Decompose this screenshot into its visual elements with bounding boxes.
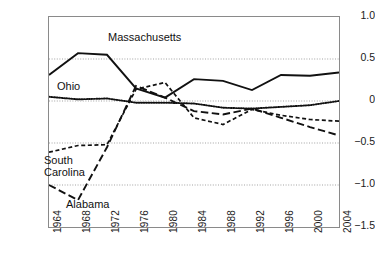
series-label-south-carolina: South Carolina <box>44 155 85 178</box>
x-tick-label: 1992 <box>255 210 266 233</box>
series-label-ohio: Ohio <box>57 81 80 93</box>
series-label-alabama: Alabama <box>66 199 109 211</box>
x-tick-label: 2004 <box>342 210 353 233</box>
x-tick-label: 1996 <box>284 210 295 233</box>
x-tick-label: 1988 <box>226 210 237 233</box>
x-tick-label: 1968 <box>81 210 92 233</box>
gridlines <box>49 59 339 185</box>
chart-figure: 1.00.50−0.5−1.0−1.5 19641968197219761980… <box>0 0 375 268</box>
plot-area <box>48 16 340 228</box>
x-tick-label: 1984 <box>197 210 208 233</box>
x-tick-label: 1976 <box>139 210 150 233</box>
data-series-group <box>49 53 339 200</box>
series-label-massachusetts: Massachusetts <box>108 32 181 44</box>
series-canvas <box>49 17 339 227</box>
series-line-massachusetts <box>49 53 339 98</box>
x-tick-label: 2000 <box>313 210 324 233</box>
x-tick-label: 1972 <box>110 210 121 233</box>
x-tick-label: 1964 <box>52 210 63 233</box>
x-tick-label: 1980 <box>168 210 179 233</box>
series-line-ohio <box>49 97 339 109</box>
series-line-south-carolina <box>49 83 339 153</box>
